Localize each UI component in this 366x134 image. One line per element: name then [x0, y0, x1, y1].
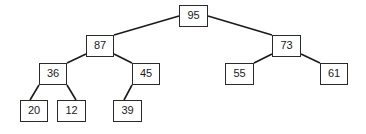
tree-edge-36-20	[30, 85, 39, 100]
tree-node-20: 20	[20, 100, 48, 122]
tree-edge-73-55	[254, 54, 272, 63]
tree-node-87: 87	[86, 35, 114, 57]
tree-edge-73-61	[301, 54, 320, 63]
tree-edge-36-12	[67, 85, 76, 100]
tree-node-95: 95	[179, 5, 208, 27]
tree-edge-87-36	[67, 54, 86, 63]
tree-node-55: 55	[225, 63, 254, 85]
tree-node-36: 36	[39, 63, 67, 85]
tree-node-39: 39	[113, 100, 142, 122]
tree-edge-95-87	[114, 16, 179, 35]
tree-node-45: 45	[132, 63, 160, 85]
tree-node-61: 61	[320, 63, 348, 85]
tree-node-73: 73	[272, 35, 301, 57]
tree-node-12: 12	[57, 100, 86, 122]
tree-edge-45-39	[124, 85, 132, 100]
tree-edge-95-73	[208, 16, 272, 35]
tree-edge-87-45	[114, 54, 132, 63]
